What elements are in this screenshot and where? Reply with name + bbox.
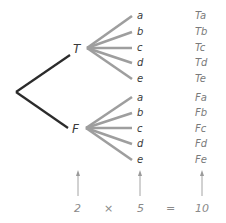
leaf-F-e: e xyxy=(137,154,143,165)
outcome: Tb xyxy=(195,26,207,37)
leaf-T-e: e xyxy=(137,73,143,84)
leaf-F-d: d xyxy=(137,138,144,149)
node-F: F xyxy=(72,122,80,136)
equation-times: × xyxy=(104,202,113,215)
leaf-F-b: b xyxy=(137,107,143,118)
leaf-T-a: a xyxy=(137,10,143,21)
node-T: T xyxy=(73,42,82,56)
arrow-up-icon xyxy=(138,170,142,196)
outcome: Fe xyxy=(195,154,207,165)
outcome: Tc xyxy=(195,42,206,53)
branch-root-to-F xyxy=(16,92,68,128)
arrow-up-icon xyxy=(200,170,204,196)
leaf-T-c: c xyxy=(137,42,143,53)
leaf-F-c: c xyxy=(137,123,143,134)
fan-T xyxy=(87,16,132,79)
equation-product: 10 xyxy=(195,202,209,215)
tree-diagram: T F a b c d e a b c d e Ta Tb Tc Td Te F… xyxy=(0,0,226,223)
equation-equals: = xyxy=(166,202,175,215)
outcome: Te xyxy=(195,73,206,84)
outcome: Fb xyxy=(195,107,207,118)
leaf-T-d: d xyxy=(137,57,144,68)
outcome: Fa xyxy=(195,92,207,103)
equation-factor2: 5 xyxy=(137,202,144,215)
outcome: Ta xyxy=(195,10,206,21)
fan-F xyxy=(86,97,132,160)
equation-factor1: 2 xyxy=(74,202,81,215)
leaf-F-a: a xyxy=(137,92,143,103)
outcome: Fd xyxy=(195,138,208,149)
outcome: Fc xyxy=(195,123,207,134)
branch-root-to-T xyxy=(16,55,70,92)
arrow-up-icon xyxy=(76,170,80,196)
outcome: Td xyxy=(195,57,208,68)
leaf-T-b: b xyxy=(137,26,143,37)
